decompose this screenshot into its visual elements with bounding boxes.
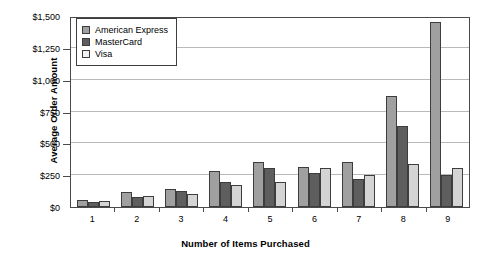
bar-mc-1 bbox=[88, 202, 99, 207]
bar-amex-7 bbox=[342, 162, 353, 207]
x-axis-title: Number of Items Purchased bbox=[0, 238, 491, 249]
bar-visa-1 bbox=[99, 201, 110, 207]
legend-label: Visa bbox=[95, 49, 112, 59]
x-tick-mark bbox=[248, 208, 249, 212]
bar-visa-7 bbox=[364, 175, 375, 207]
legend-swatch-icon bbox=[82, 50, 90, 58]
bar-group bbox=[248, 18, 292, 207]
x-tick-mark bbox=[114, 208, 115, 212]
x-tick-label: 2 bbox=[114, 214, 158, 230]
bar-visa-6 bbox=[320, 168, 331, 207]
bar-mc-9 bbox=[441, 175, 452, 207]
x-tick-mark bbox=[426, 208, 427, 212]
bar-visa-3 bbox=[187, 194, 198, 207]
chart-legend: American ExpressMasterCardVisa bbox=[76, 18, 177, 66]
y-tick-mark bbox=[63, 81, 70, 82]
y-tick-mark bbox=[63, 176, 70, 177]
bar-amex-6 bbox=[298, 167, 309, 207]
bar-visa-5 bbox=[275, 182, 286, 207]
bar-visa-8 bbox=[408, 164, 419, 207]
legend-label: MasterCard bbox=[95, 37, 142, 47]
bar-mc-7 bbox=[353, 179, 364, 207]
bar-amex-8 bbox=[386, 96, 397, 207]
x-tick-mark bbox=[159, 208, 160, 212]
bar-mc-4 bbox=[220, 182, 231, 207]
legend-item-visa: Visa bbox=[82, 49, 168, 59]
legend-label: American Express bbox=[95, 25, 168, 35]
legend-swatch-icon bbox=[82, 38, 90, 46]
bar-mc-6 bbox=[309, 173, 320, 207]
bar-mc-8 bbox=[397, 126, 408, 207]
x-tick-label: 9 bbox=[426, 214, 470, 230]
x-axis-ticks bbox=[70, 208, 470, 213]
legend-item-amex: American Express bbox=[82, 25, 168, 35]
x-tick-mark bbox=[292, 208, 293, 212]
x-tick-label: 5 bbox=[248, 214, 292, 230]
x-tick-mark bbox=[381, 208, 382, 212]
x-tick-label: 4 bbox=[203, 214, 247, 230]
bar-amex-1 bbox=[77, 200, 88, 207]
bar-amex-2 bbox=[121, 192, 132, 207]
x-tick-label: 6 bbox=[292, 214, 336, 230]
bar-visa-4 bbox=[231, 185, 242, 207]
y-tick-mark bbox=[63, 113, 70, 114]
bar-visa-2 bbox=[143, 196, 154, 207]
y-axis-tick-labels: $0$250$500$750$1,000$1,250$1,500 bbox=[0, 17, 66, 208]
bar-amex-4 bbox=[209, 171, 220, 207]
y-tick-label: $0 bbox=[50, 203, 60, 213]
bar-mc-3 bbox=[176, 191, 187, 207]
y-tick-label: $250 bbox=[40, 171, 60, 181]
bar-amex-3 bbox=[165, 189, 176, 207]
legend-item-mc: MasterCard bbox=[82, 37, 168, 47]
x-tick-label: 1 bbox=[70, 214, 114, 230]
x-tick-label: 3 bbox=[159, 214, 203, 230]
bar-mc-2 bbox=[132, 197, 143, 207]
y-tick-mark bbox=[63, 49, 70, 50]
bar-group bbox=[204, 18, 248, 207]
y-tick-label: $1,250 bbox=[32, 44, 60, 54]
x-tick-label: 8 bbox=[381, 214, 425, 230]
bar-group bbox=[381, 18, 425, 207]
bar-visa-9 bbox=[452, 168, 463, 207]
x-tick-mark bbox=[203, 208, 204, 212]
y-tick-label: $1,000 bbox=[32, 76, 60, 86]
y-tick-mark bbox=[63, 144, 70, 145]
bar-group bbox=[425, 18, 469, 207]
bar-group bbox=[292, 18, 336, 207]
legend-swatch-icon bbox=[82, 26, 90, 34]
y-tick-label: $750 bbox=[40, 108, 60, 118]
bar-amex-5 bbox=[253, 162, 264, 207]
y-tick-label: $500 bbox=[40, 139, 60, 149]
x-tick-mark bbox=[337, 208, 338, 212]
bar-mc-5 bbox=[264, 168, 275, 207]
x-axis-tick-labels: 123456789 bbox=[70, 214, 470, 230]
bar-amex-9 bbox=[430, 22, 441, 207]
bar-group bbox=[336, 18, 380, 207]
x-tick-label: 7 bbox=[337, 214, 381, 230]
bar-chart: Average Order Amount $0$250$500$750$1,00… bbox=[0, 0, 491, 274]
y-tick-label: $1,500 bbox=[32, 12, 60, 22]
